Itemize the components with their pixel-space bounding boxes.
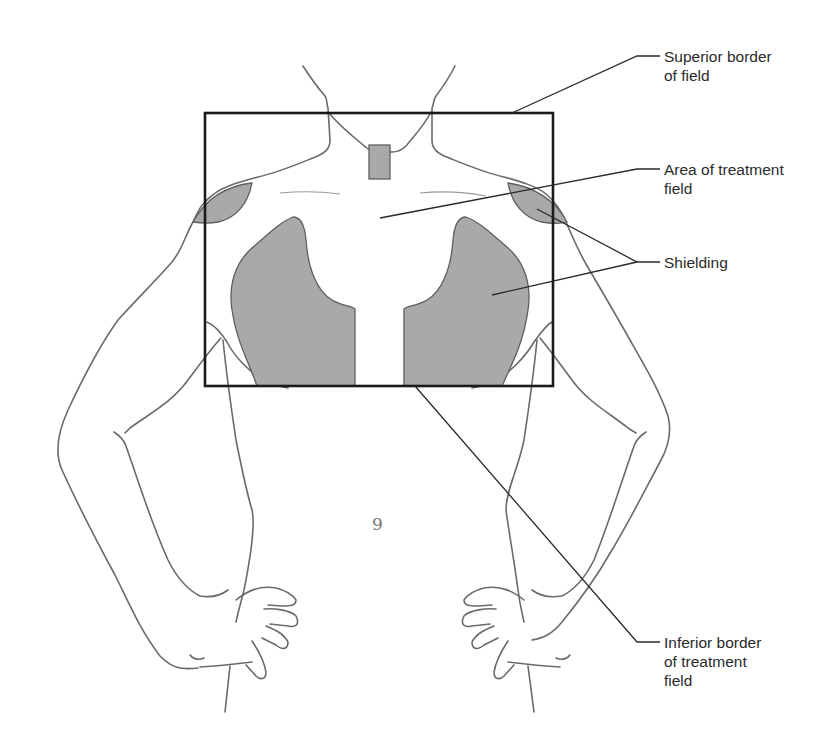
shielding-blocks: [193, 145, 567, 386]
label-inferior-border: Inferior border of treatment field: [664, 633, 761, 690]
body-outline: [58, 66, 670, 712]
navel-icon: 9: [372, 514, 383, 534]
label-shielding: Shielding: [664, 253, 728, 272]
left-lung-shield: [231, 217, 355, 386]
label-superior-border: Superior border of field: [664, 47, 772, 85]
label-area-of-treatment: Area of treatment field: [664, 160, 784, 198]
leader-superior-border: [512, 56, 660, 113]
right-lung-shield: [404, 217, 529, 386]
larynx-shield: [369, 145, 390, 179]
